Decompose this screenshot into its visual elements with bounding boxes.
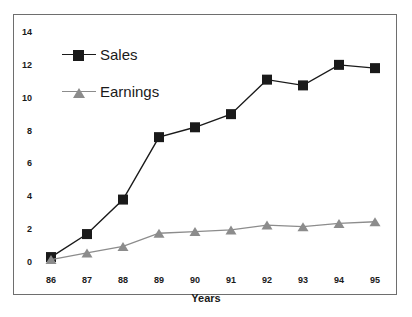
x-tick-label: 92 [255,275,279,285]
chart-figure: 02468101214 86878889909192939495 Years S… [0,0,412,317]
data-point-square [298,80,308,90]
data-point-square [370,63,380,73]
data-point-triangle [82,248,93,257]
data-point-square [334,60,344,70]
data-point-square [190,122,200,132]
square-marker-icon [73,50,84,61]
legend-swatch-earnings [62,85,96,99]
legend-label-sales: Sales [99,46,138,63]
triangle-marker-icon [73,88,85,98]
y-tick-label: 8 [16,126,32,136]
series-earnings [46,217,381,264]
series-line-earnings [51,222,375,260]
x-tick-label: 87 [75,275,99,285]
data-point-square [226,109,236,119]
legend-swatch-sales [62,48,96,62]
x-tick-label: 89 [147,275,171,285]
data-point-square [154,132,164,142]
x-axis-title: Years [0,292,412,304]
data-point-square [82,229,92,239]
y-tick-label: 0 [16,257,32,267]
y-tick-label: 2 [16,224,32,234]
data-point-square [262,75,272,85]
y-tick-label: 14 [16,27,32,37]
y-tick-label: 4 [16,191,32,201]
y-tick-label: 10 [16,93,32,103]
x-tick-label: 86 [39,275,63,285]
x-tick-label: 91 [219,275,243,285]
legend-label-earnings: Earnings [99,83,159,100]
y-tick-label: 6 [16,158,32,168]
data-point-triangle [118,242,129,251]
legend-item-sales: Sales [62,46,138,63]
y-tick-label: 12 [16,60,32,70]
x-tick-label: 93 [291,275,315,285]
x-tick-label: 88 [111,275,135,285]
data-point-square [118,195,128,205]
legend-item-earnings: Earnings [62,83,159,100]
x-tick-label: 90 [183,275,207,285]
x-tick-label: 95 [363,275,387,285]
x-tick-label: 94 [327,275,351,285]
